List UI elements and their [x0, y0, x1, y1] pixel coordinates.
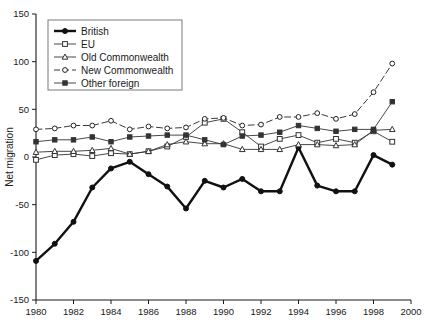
data-point — [63, 42, 68, 47]
data-point — [390, 61, 395, 66]
data-point — [90, 185, 95, 190]
data-point — [202, 178, 207, 183]
x-tick-label: 1984 — [100, 306, 121, 317]
data-point — [71, 219, 76, 224]
x-tick-label: 1992 — [250, 306, 271, 317]
y-tick-label: 50 — [18, 104, 29, 115]
data-point — [63, 68, 68, 73]
data-point — [390, 100, 394, 104]
y-tick-label: 0 — [24, 151, 29, 162]
data-point — [71, 123, 76, 128]
data-point — [90, 135, 94, 139]
x-tick-label: 1994 — [288, 306, 309, 317]
data-point — [184, 125, 189, 130]
data-point — [146, 134, 150, 138]
y-tick-label: 150 — [13, 8, 29, 19]
data-point — [278, 130, 282, 134]
data-point — [71, 138, 75, 142]
data-point — [109, 140, 113, 144]
data-point — [277, 146, 283, 151]
data-point — [164, 142, 170, 147]
data-point — [296, 123, 300, 127]
data-point — [240, 176, 245, 181]
data-point — [390, 162, 395, 167]
data-point — [239, 146, 245, 151]
data-point — [34, 157, 39, 162]
data-point — [221, 116, 226, 121]
data-point — [371, 90, 376, 95]
x-tick-label: 1998 — [363, 306, 384, 317]
data-point — [90, 154, 95, 159]
x-tick-label: 1986 — [138, 306, 159, 317]
data-point — [108, 145, 114, 150]
data-point — [184, 133, 188, 137]
data-point — [184, 206, 189, 211]
data-point — [63, 81, 67, 85]
data-point — [389, 126, 395, 131]
data-point — [333, 143, 339, 148]
x-tick-label: 1990 — [213, 306, 234, 317]
data-point — [34, 127, 39, 132]
chart-container: -150-100-5005010015019801982198419861988… — [0, 0, 424, 326]
net-migration-line-chart: -150-100-5005010015019801982198419861988… — [0, 0, 424, 326]
data-point — [53, 138, 57, 142]
data-point — [146, 124, 151, 129]
data-point — [390, 139, 395, 144]
data-point — [63, 29, 68, 34]
data-point — [127, 127, 132, 132]
data-point — [259, 122, 264, 127]
data-point — [334, 116, 339, 121]
data-point — [352, 112, 357, 117]
data-point — [352, 189, 357, 194]
data-point — [296, 133, 301, 138]
y-tick-label: -50 — [15, 199, 29, 210]
legend-label: New Commonwealth — [81, 65, 173, 76]
data-point — [334, 189, 339, 194]
series-line — [36, 148, 392, 261]
data-point — [34, 258, 39, 263]
data-point — [296, 115, 301, 120]
data-point — [165, 126, 170, 131]
data-point — [52, 126, 57, 131]
data-point — [165, 184, 170, 189]
x-tick-label: 1980 — [25, 306, 46, 317]
data-point — [52, 148, 58, 153]
data-point — [109, 118, 114, 123]
data-point — [89, 147, 95, 152]
y-tick-label: -150 — [10, 294, 29, 305]
data-point — [277, 136, 282, 141]
data-point — [34, 140, 38, 144]
x-tick-label: 2000 — [400, 306, 421, 317]
data-point — [146, 172, 151, 177]
legend-label: Old Commonwealth — [81, 52, 169, 63]
data-point — [221, 142, 225, 146]
data-point — [240, 134, 244, 138]
data-point — [334, 129, 338, 133]
data-point — [90, 123, 95, 128]
data-point — [127, 159, 132, 164]
data-point — [71, 148, 77, 153]
data-point — [33, 149, 39, 154]
legend-label: British — [81, 26, 109, 37]
data-point — [315, 183, 320, 188]
x-tick-label: 1988 — [175, 306, 196, 317]
y-axis-title: Net migration — [4, 127, 15, 186]
data-point — [371, 153, 376, 158]
data-point — [128, 135, 132, 139]
data-point — [109, 166, 114, 171]
data-point — [277, 189, 282, 194]
data-point — [52, 241, 57, 246]
data-point — [203, 138, 207, 142]
data-point — [240, 123, 245, 128]
data-point — [165, 133, 169, 137]
data-point — [202, 116, 207, 121]
data-point — [259, 133, 263, 137]
data-point — [296, 142, 302, 147]
data-point — [334, 136, 339, 141]
data-point — [315, 126, 319, 130]
legend: BritishEUOld CommonwealthNew Commonwealt… — [48, 20, 182, 90]
y-tick-label: 100 — [13, 56, 29, 67]
data-point — [221, 185, 226, 190]
data-point — [315, 111, 320, 116]
y-tick-label: -100 — [10, 247, 29, 258]
